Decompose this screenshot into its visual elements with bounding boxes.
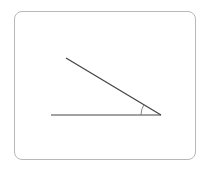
angle-diagram — [0, 0, 211, 171]
angle-arc — [141, 105, 144, 115]
inclined-ray — [66, 58, 161, 115]
